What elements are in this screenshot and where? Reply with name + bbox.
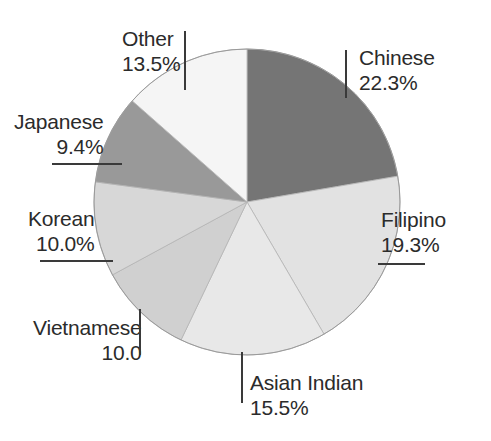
pie-label-name-korean: Korean xyxy=(28,207,95,232)
pie-leader-line-vietnamese xyxy=(139,309,141,355)
pie-label-value-korean: 10.0% xyxy=(28,232,95,257)
pie-label-name-vietnamese: Vietnamese xyxy=(33,316,142,341)
pie-chart-figure: Chinese22.3%Filipino19.3%Asian Indian15.… xyxy=(0,0,491,441)
pie-leader-line-other xyxy=(184,31,186,90)
pie-label-chinese: Chinese22.3% xyxy=(359,46,435,95)
pie-label-filipino: Filipino19.3% xyxy=(381,208,446,257)
pie-label-vietnamese: Vietnamese10.0 xyxy=(33,316,142,365)
pie-label-value-asian-indian: 15.5% xyxy=(250,396,363,421)
pie-label-name-asian-indian: Asian Indian xyxy=(250,371,363,396)
pie-label-name-chinese: Chinese xyxy=(359,46,435,71)
pie-label-value-filipino: 19.3% xyxy=(381,233,446,258)
pie-label-value-vietnamese: 10.0 xyxy=(33,341,142,366)
pie-label-value-chinese: 22.3% xyxy=(359,71,435,96)
pie-label-value-other: 13.5% xyxy=(122,52,181,77)
pie-leader-line-asian-indian xyxy=(241,352,243,403)
pie-leader-line-filipino xyxy=(378,263,425,265)
pie-label-value-japanese: 9.4% xyxy=(14,135,103,160)
pie-label-japanese: Japanese9.4% xyxy=(14,110,103,159)
pie-label-korean: Korean10.0% xyxy=(28,207,95,256)
pie-label-asian-indian: Asian Indian15.5% xyxy=(250,371,363,420)
pie-leader-line-chinese xyxy=(345,50,347,98)
pie-label-name-japanese: Japanese xyxy=(14,110,103,135)
pie-label-other: Other13.5% xyxy=(122,27,181,76)
pie-label-name-other: Other xyxy=(122,27,181,52)
pie-label-name-filipino: Filipino xyxy=(381,208,446,233)
pie-leader-line-korean xyxy=(40,260,113,262)
pie-leader-line-japanese xyxy=(52,163,122,165)
